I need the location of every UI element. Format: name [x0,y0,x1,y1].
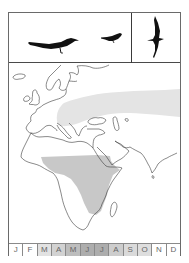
species-plate: J F M A M J J A S O N D [8,12,181,256]
aral-coast [125,119,128,122]
ireland-coast [24,96,30,101]
breeding-range [57,89,180,126]
scandinavia-coast [46,65,109,90]
bird-flight-icon [147,16,164,58]
month-feb: F [23,244,37,256]
month-nov: N [152,244,166,256]
month-apr: A [52,244,66,256]
india-coast [130,147,177,173]
black-sea-coast [88,118,106,125]
month-mar: M [38,244,52,256]
month-jan: J [9,244,23,256]
month-oct: O [138,244,152,256]
baltic-coast [55,81,77,100]
silhouettes-svg [9,13,180,63]
month-sep: S [124,244,138,256]
persian-gulf-coast [115,141,130,148]
month-aug: A [109,244,123,256]
britain-coast [29,90,39,105]
madagascar-coast [110,202,117,217]
range-map [9,63,180,243]
caspian-coast [113,117,119,131]
map-svg [9,63,180,243]
sri-lanka-coast [152,176,154,179]
bird-perched-large-icon [28,38,79,53]
month-jul: J [95,244,109,256]
iceland-coast [13,74,25,79]
western-europe-coast [26,100,57,133]
bird-perched-small-icon [101,33,122,43]
silhouette-panel [9,13,180,63]
panel-divider [131,13,132,63]
north-africa-coast [31,133,93,148]
month-jun: J [81,244,95,256]
month-presence-bar: J F M A M J J A S O N D [9,243,180,256]
month-dec: D [167,244,180,256]
wintering-range [41,155,120,215]
month-may: M [66,244,80,256]
